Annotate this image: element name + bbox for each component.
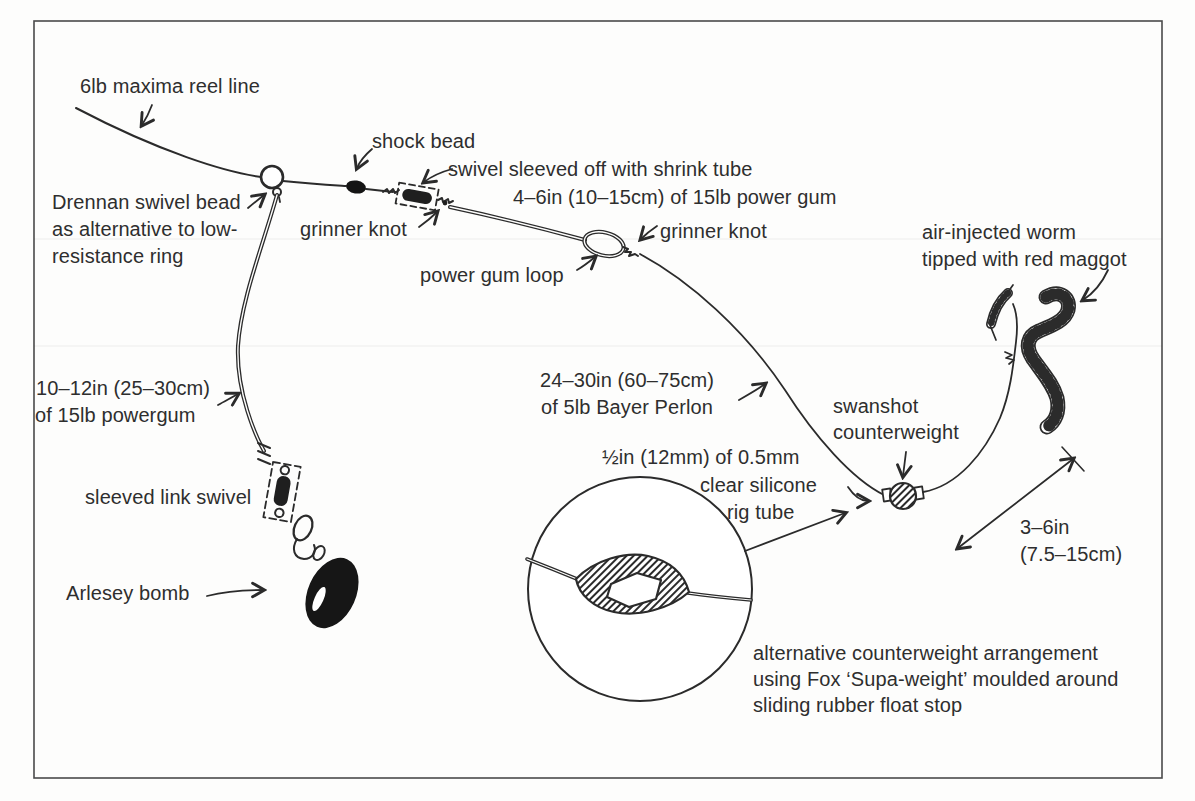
swanshot-drawing	[882, 483, 924, 509]
inset-detail-circle	[527, 477, 752, 701]
label-sleeved-swivel-line1: swivel sleeved off with shrink tube	[448, 158, 752, 180]
drennan-swivel-bead-drawing	[261, 166, 287, 202]
grinner-knot-left-drawing	[383, 189, 399, 193]
arrow-rigtube-position	[848, 487, 868, 501]
arrow-distance-slash	[1062, 447, 1084, 471]
arrow-swanshot	[903, 452, 906, 476]
label-alt-counterweight-line1: alternative counterweight arrangement	[753, 642, 1098, 664]
powergum-drop-line	[238, 195, 277, 451]
label-grinner-knot-left: grinner knot	[300, 218, 407, 240]
label-worm-line2: tipped with red maggot	[922, 248, 1127, 270]
arrow-arlesey-bomb	[207, 590, 263, 596]
link-ring-drawing	[290, 513, 316, 544]
scanned-rig-diagram-page: 6lb maxima reel line Drennan swivel bead…	[0, 0, 1195, 801]
label-distance-line2: (7.5–15cm)	[1020, 543, 1122, 565]
label-arlesey-bomb: Arlesey bomb	[66, 582, 189, 604]
label-grinner-knot-right: grinner knot	[660, 220, 767, 242]
label-drennan-line3: resistance ring	[52, 245, 184, 267]
label-silicone-line2: clear silicone	[700, 474, 817, 496]
label-drennan-line2: as alternative to low-	[52, 218, 238, 240]
arrow-power-gum-loop	[577, 257, 595, 270]
label-alt-counterweight-line2: using Fox ‘Supa-weight’ moulded around	[753, 668, 1119, 690]
label-shock-bead: shock bead	[372, 130, 475, 152]
arrow-reel-line	[142, 105, 152, 125]
arrow-powergum-drop	[218, 394, 238, 405]
label-distance-line1: 3–6in	[1020, 516, 1069, 538]
label-worm-line1: air-injected worm	[922, 221, 1076, 243]
label-sleeved-link-swivel: sleeved link swivel	[85, 486, 251, 508]
label-reel-line: 6lb maxima reel line	[80, 75, 260, 97]
label-bayer-line1: 24–30in (60–75cm)	[540, 369, 714, 391]
label-silicone-line1: ½in (12mm) of 0.5mm	[602, 446, 800, 468]
label-swanshot-line1: swanshot	[833, 395, 918, 417]
reel-line-drawing	[76, 108, 261, 177]
label-powergum-line1: 10–12in (25–30cm)	[36, 377, 210, 399]
arrow-drennan-bead	[248, 195, 264, 208]
hooklength-line	[923, 304, 1017, 492]
sleeved-link-swivel-drawing	[263, 462, 300, 522]
arrow-grinner-left	[419, 212, 437, 227]
label-drennan-line1: Drennan swivel bead	[52, 191, 241, 213]
label-powergum-line2: of 15lb powergum	[35, 404, 196, 426]
label-silicone-line3: rig tube	[727, 501, 795, 523]
link-hook-drawing	[294, 539, 315, 559]
line-bead-to-shockbead	[283, 181, 346, 186]
worm-drawing	[1028, 294, 1068, 427]
power-gum-loop-drawing	[582, 228, 638, 260]
arrow-worm	[1083, 270, 1108, 300]
shock-bead-drawing	[345, 179, 367, 195]
grinner-knot-right-drawing	[623, 247, 638, 256]
label-power-gum-loop: power gum loop	[420, 264, 564, 286]
arrow-bayer-perlon	[739, 384, 765, 400]
label-bayer-line2: of 5lb Bayer Perlon	[541, 396, 713, 418]
label-sleeved-swivel-line2: 4–6in (10–15cm) of 15lb power gum	[513, 186, 837, 208]
label-swanshot-line2: counterweight	[833, 421, 959, 443]
label-alt-counterweight-line3: sliding rubber float stop	[753, 694, 962, 716]
scan-artifact-band	[34, 345, 1162, 347]
sleeved-swivel-drawing	[396, 183, 439, 211]
arrow-shock-bead	[357, 149, 372, 168]
red-maggot-drawing	[990, 285, 1013, 340]
